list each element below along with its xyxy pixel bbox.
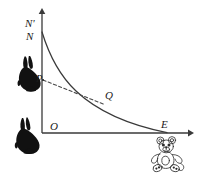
teddy-bear-icon	[151, 137, 183, 173]
label-e: E	[161, 119, 168, 130]
label-o: O	[50, 121, 58, 132]
label-n-prime: N'	[25, 18, 35, 29]
label-q: Q	[105, 90, 113, 101]
label-n: N	[26, 31, 33, 42]
rabbit-silhouette-icon	[15, 118, 40, 154]
decay-curve	[42, 32, 167, 133]
chord-p-q-dashed	[43, 80, 105, 105]
label-p: P	[36, 74, 42, 85]
y-axis-arrow-icon	[39, 8, 46, 14]
x-axis-arrow-icon	[188, 130, 194, 137]
figure-canvas: N' N P Q O E	[0, 0, 201, 185]
